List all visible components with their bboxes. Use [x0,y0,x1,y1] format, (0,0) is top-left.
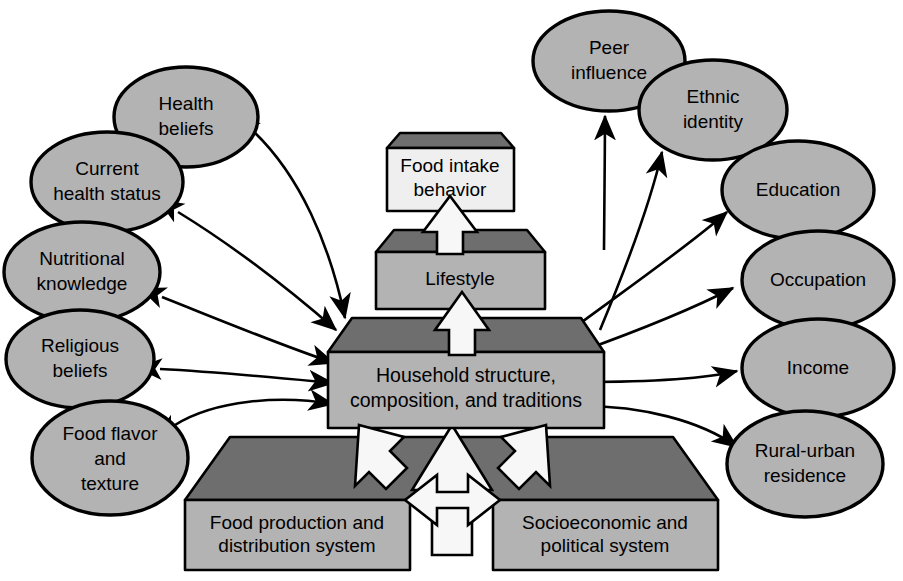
ellipse-health-beliefs-line1: Health [159,93,214,114]
ellipse-food-flavor-texture: Food flavor and texture [32,401,188,515]
ellipse-ethnic-identity-line2: identity [683,111,744,132]
conceptual-model-diagram: Food production and distribution system … [0,0,903,581]
ellipse-ethnic-identity-line1: Ethnic [687,86,740,107]
box-socioeconomic-line2: political system [541,535,670,556]
box-household-line2: composition, and traditions [350,389,582,411]
ellipse-health-beliefs-line2: beliefs [159,118,214,139]
ellipse-religious-beliefs-line2: beliefs [53,360,108,381]
box-socioeconomic-line1: Socioeconomic and [522,512,688,533]
box-food-production-line2: distribution system [218,535,375,556]
ellipse-nutritional-knowledge-shape [4,222,160,322]
ellipse-rural-urban-residence-line2: residence [764,465,846,486]
ellipse-rural-urban-residence-shape [727,411,883,517]
box-food-intake-top [387,133,514,148]
ellipse-religious-beliefs: Religious beliefs [6,310,154,408]
ellipse-education-label: Education [756,179,841,200]
ellipse-rural-urban-residence-line1: Rural-urban [755,440,855,461]
box-food-production-line1: Food production and [210,512,384,533]
ellipse-religious-beliefs-shape [6,310,154,408]
connector-household-occupation [579,288,733,352]
ellipse-religious-beliefs-line1: Religious [41,335,119,356]
ellipse-income-label: Income [787,357,849,378]
box-food-intake-line1: Food intake [400,155,499,176]
connector-household-education [571,212,727,330]
ellipse-occupation-label: Occupation [770,269,866,290]
ellipse-nutritional-knowledge-line1: Nutritional [39,248,125,269]
ellipse-current-health-status: Current health status [31,132,183,232]
ellipse-food-flavor-texture-line1: Food flavor [62,423,158,444]
connector-household-health-beliefs [252,130,345,318]
box-lifestyle-label: Lifestyle [425,268,495,289]
ellipse-current-health-status-line1: Current [75,158,139,179]
ellipse-rural-urban-residence: Rural-urban residence [727,411,883,517]
ellipse-occupation: Occupation [742,231,894,329]
box-household-line1: Household structure, [376,364,556,386]
ellipse-current-health-status-line2: health status [53,183,161,204]
ellipse-current-health-status-shape [31,132,183,232]
connector-lifestyle-to-peer-influence [604,116,605,250]
ellipse-nutritional-knowledge-line2: knowledge [37,273,128,294]
connector-household-food-flavor-texture [175,400,333,425]
ellipse-education: Education [722,141,874,239]
connector-household-religious-beliefs [160,369,333,383]
ellipse-peer-influence-line1: Peer [589,37,630,58]
box-food-production-top [185,437,449,500]
ellipse-peer-influence-line2: influence [571,62,647,83]
ellipse-income: Income [742,319,894,417]
diagram-canvas: Food production and distribution system … [0,0,903,581]
ellipse-food-flavor-texture-line3: texture [81,473,139,494]
ellipse-food-flavor-texture-line2: and [94,448,126,469]
ellipse-nutritional-knowledge: Nutritional knowledge [4,222,160,322]
